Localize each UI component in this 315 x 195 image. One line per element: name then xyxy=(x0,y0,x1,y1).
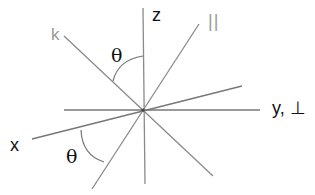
k-label: k xyxy=(51,25,60,45)
x-axis-line xyxy=(32,86,242,139)
y-perp-label: y, ⊥ xyxy=(272,97,306,119)
z-axis-line xyxy=(143,8,145,184)
origin-point xyxy=(141,108,144,111)
x-label: x xyxy=(10,134,19,156)
z-label: z xyxy=(152,5,161,25)
parallel-label: || xyxy=(208,10,219,32)
theta-label-top: θ xyxy=(111,44,122,66)
diagram-svg xyxy=(0,0,315,195)
theta-arc-bottom xyxy=(81,130,104,162)
parallel-axis-line xyxy=(92,24,199,189)
theta-label-bottom: θ xyxy=(66,145,77,167)
coordinate-diagram: z k || y, ⊥ x θ θ xyxy=(0,0,315,195)
